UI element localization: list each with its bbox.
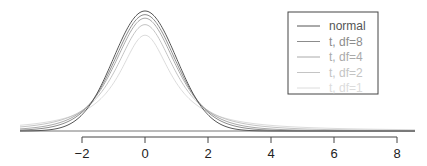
x-tick-label: 2: [204, 146, 211, 161]
legend: normalt, df=8t, df=4t, df=2t, df=1: [288, 12, 378, 95]
x-tick-label: 0: [141, 146, 148, 161]
legend-label: t, df=8: [329, 35, 363, 49]
x-tick-label: 6: [330, 146, 337, 161]
x-tick-label: 8: [393, 146, 400, 161]
legend-label: t, df=4: [329, 50, 363, 64]
x-tick-label: 4: [267, 146, 274, 161]
legend-label: t, df=2: [329, 66, 363, 80]
legend-label: t, df=1: [329, 81, 363, 95]
x-tick-label: −2: [75, 146, 90, 161]
x-axis: −202468: [75, 137, 401, 161]
chart: −202468 normalt, df=8t, df=4t, df=2t, df…: [0, 0, 427, 166]
legend-label: normal: [329, 19, 366, 33]
